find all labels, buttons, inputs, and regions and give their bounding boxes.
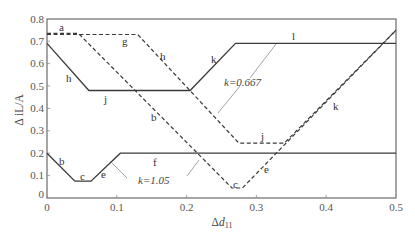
annotation-pointer [110,161,127,178]
annotation-pointer [218,86,240,113]
y-tick-label: 0.7 [30,35,44,47]
y-tick-label: 0.3 [30,124,44,136]
annotation-k-0667: k=0.667 [224,76,262,88]
series-k0667-dashed [47,30,396,143]
annotation-pointer [250,44,276,78]
x-tick-label: 0.1 [110,201,124,213]
y-axis-title: Δ iL/A [13,94,25,126]
curve-label-e-dashed: e [264,163,269,175]
annotation-k-105: k=1.05 [138,174,170,186]
curve-label-f: f [153,156,157,168]
y-tick-label: 0.6 [30,57,44,69]
x-tick-label: 0.2 [180,201,194,213]
curve-label-g: g [122,35,128,47]
annotation-pointer [187,160,199,176]
curve-label-j-solid: j [103,93,107,105]
y-tick-label: 0.4 [30,102,44,114]
x-tick-label: 0 [44,201,50,213]
x-tick-label: 0.3 [250,201,264,213]
curve-label-c-dashed: c [233,178,238,190]
x-tick-label: 0.4 [319,201,333,213]
curve-label-l: l [292,30,295,42]
curve-label-c-solid: c [80,170,85,182]
curve-label-b-dashed: b [151,111,157,123]
x-axis-title: Δd11 [212,216,233,230]
curve-label-k-solid: k [211,53,217,65]
y-tick-label: 0.2 [30,147,44,159]
curve-label-j-dashed: j [260,130,264,142]
line-chart: 0 0.1 0.2 0.3 0.4 0.5 0 0.1 0.2 0.3 0.4 … [0,0,415,234]
curve-label-h-solid: h [66,72,72,84]
curve-label-h-dashed: h [160,50,166,62]
curve-label-e-solid: e [101,168,106,180]
y-tick-label: 0.1 [30,169,44,181]
y-tick-label: 0 [39,188,45,200]
curve-label-b-solid: b [59,155,65,167]
curve-label-k-dashed: k [333,100,339,112]
y-tick-label: 0.8 [30,13,44,25]
x-tick-label: 0.5 [389,201,403,213]
y-tick-label: 0.5 [30,80,44,92]
curve-label-a: a [59,21,64,33]
